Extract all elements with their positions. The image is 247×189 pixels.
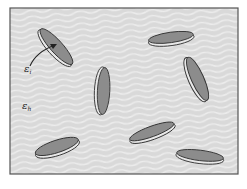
composite-medium-diagram: εi εh xyxy=(0,0,247,189)
